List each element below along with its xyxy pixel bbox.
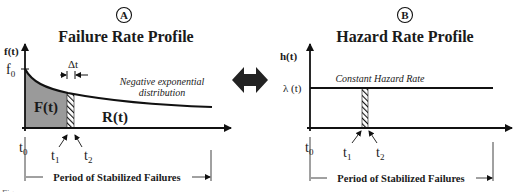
t1-label: t1 (51, 148, 59, 165)
panel-b-hazard-rate-profile: B Hazard Rate Profile Constant Hazard Ra… (280, 8, 512, 185)
line-annotation: Constant Hazard Rate (335, 73, 425, 84)
t1-pointer (352, 131, 361, 143)
curve-annotation-line1: Negative exponential (119, 76, 205, 87)
region-label-f: F(t) (34, 99, 58, 116)
badge-letter: B (401, 9, 409, 21)
y-axis-label: f(t) (4, 45, 19, 58)
diagram-canvas: A Failure Rate Profile f(t) f0 Δt Negati… (0, 0, 517, 192)
t0-label: t0 (19, 140, 28, 157)
panel-a-badge: A (117, 8, 132, 23)
lambda-label: λ (t) (283, 82, 302, 95)
delta-t-arrows (60, 71, 88, 79)
delta-t-hatched-bar (362, 88, 368, 128)
delta-t-hatched-bar (67, 93, 74, 128)
t2-label: t2 (376, 145, 384, 162)
region-label-r: R(t) (102, 109, 128, 126)
curve-annotation-line2: distribution (139, 87, 186, 98)
t2-pointer (369, 131, 377, 143)
t1-label: t1 (343, 145, 351, 162)
delta-t-label: Δt (68, 58, 78, 70)
t2-label: t2 (84, 148, 92, 165)
f0-label: f0 (6, 62, 16, 79)
double-arrow-icon (232, 67, 268, 93)
figure-caption: Figure ... (2, 188, 35, 192)
t2-pointer (75, 135, 82, 147)
t1-pointer (59, 135, 67, 147)
period-label: Period of Stabilized Failures (337, 173, 464, 184)
panel-b-badge: B (398, 8, 413, 23)
badge-letter: A (120, 9, 128, 21)
panel-a-title: Failure Rate Profile (58, 28, 193, 45)
panel-a-failure-rate-profile: A Failure Rate Profile f(t) f0 Δt Negati… (4, 8, 231, 184)
panel-b-title: Hazard Rate Profile (336, 28, 473, 45)
y-axis-label: h(t) (280, 50, 297, 63)
t0-label: t0 (305, 140, 314, 157)
period-label: Period of Stabilized Failures (53, 172, 180, 183)
